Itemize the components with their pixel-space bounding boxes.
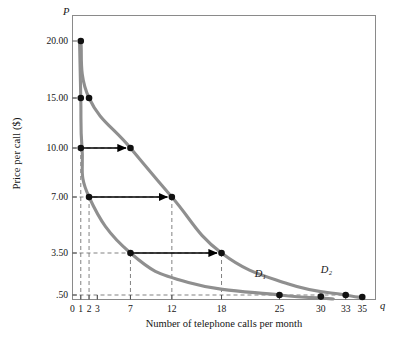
shift-arrows <box>82 148 217 253</box>
plot-frame <box>73 16 376 300</box>
y-tick-label-row: 20.00 <box>10 35 68 47</box>
axis-tick-marks <box>73 41 363 300</box>
y-tick-label-row: 3.50 <box>10 247 68 259</box>
x-tick-label: 7 <box>119 303 141 314</box>
x-tick-label: 35 <box>351 303 373 314</box>
y-tick-label: .50 <box>56 289 68 300</box>
demand-curves <box>80 41 363 299</box>
y-tick-label-row: 7.00 <box>10 191 68 203</box>
curve-label: D₂ <box>321 264 332 275</box>
y-tick-label: 3.50 <box>51 247 68 258</box>
q-axis-symbol: q <box>380 300 385 311</box>
y-tick-label: 20.00 <box>46 35 68 46</box>
y-tick-label: 15.00 <box>46 92 68 103</box>
x-tick-label: 3 <box>86 303 108 314</box>
y-tick-label-row: .50 <box>10 289 68 301</box>
curve-label: D₁ <box>255 268 266 279</box>
x-tick-label: 25 <box>268 303 290 314</box>
x-axis-title: Number of telephone calls per month <box>72 318 376 329</box>
x-tick-label: 30 <box>310 303 332 314</box>
y-tick-label-row: 10.00 <box>10 142 68 154</box>
y-tick-label: 10.00 <box>46 142 68 153</box>
x-tick-label: 12 <box>161 303 183 314</box>
y-tick-label-row: 15.00 <box>10 92 68 104</box>
y-tick-label: 7.00 <box>51 191 68 202</box>
x-tick-label: 18 <box>211 303 233 314</box>
p-axis-symbol: P <box>63 6 69 17</box>
demand-curve-figure: P q Price per call ($) Number of telepho… <box>0 0 397 348</box>
